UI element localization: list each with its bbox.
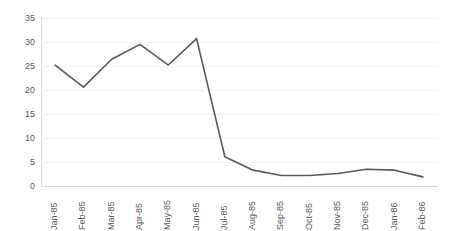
series-line-layer xyxy=(0,0,450,231)
series-line xyxy=(55,39,423,177)
line-chart: 05101520253035 Jan-85Feb-85Mar-85Apr-85M… xyxy=(0,0,450,231)
